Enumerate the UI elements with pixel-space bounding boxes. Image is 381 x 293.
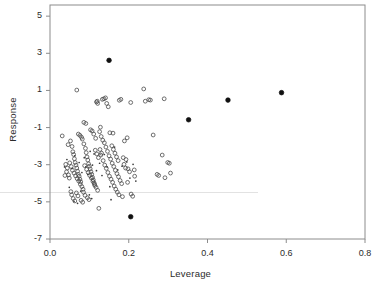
data-point-dot <box>114 146 116 148</box>
scatter-plot-figure: Leverage Response 0.00.20.40.60.8 531-1-… <box>0 0 381 293</box>
data-point-open <box>98 130 102 134</box>
data-point-open <box>82 142 86 146</box>
data-point-dot <box>68 187 70 189</box>
data-point-open <box>92 132 96 136</box>
data-point-open <box>73 161 77 165</box>
data-point-open <box>98 148 102 152</box>
data-point-open <box>123 139 127 143</box>
data-point-open <box>129 101 133 105</box>
data-point-open <box>116 159 120 163</box>
y-tick-label: -3 <box>12 159 42 169</box>
data-point-dot <box>85 166 87 168</box>
data-point-open <box>75 88 79 92</box>
data-point-open <box>169 171 173 175</box>
data-point-dot <box>81 172 83 174</box>
data-point-open <box>109 157 113 161</box>
data-point-dot <box>92 164 94 166</box>
data-point-open <box>97 156 101 160</box>
data-point-dot <box>106 166 108 168</box>
data-point-open <box>97 206 101 210</box>
data-point-dot <box>135 180 137 182</box>
y-tick-label: 5 <box>12 10 42 20</box>
x-tick-label: 0.2 <box>109 248 149 258</box>
data-point-open <box>69 139 73 143</box>
data-point-dot <box>117 169 119 171</box>
data-point-open <box>68 161 72 165</box>
data-point-open <box>120 182 124 186</box>
data-point-dot <box>93 153 95 155</box>
data-point-open <box>117 175 121 179</box>
data-point-dot <box>74 155 76 157</box>
y-tick-label: -1 <box>12 122 42 132</box>
data-point-open <box>95 152 99 156</box>
data-point-dot <box>126 161 128 163</box>
data-point-open <box>106 171 110 175</box>
data-point-dot <box>121 165 123 167</box>
data-point-open <box>112 165 116 169</box>
y-tick-label: 1 <box>12 84 42 94</box>
x-tick-label: 0.4 <box>188 248 228 258</box>
data-point-open <box>66 143 70 147</box>
data-point-dot <box>87 174 89 176</box>
data-point-dot <box>91 198 93 200</box>
data-point-open <box>113 151 117 155</box>
data-point-open <box>104 145 108 149</box>
data-point-dot <box>83 157 85 159</box>
y-tick-label: 3 <box>12 47 42 57</box>
data-point-open <box>111 148 115 152</box>
data-point-dot <box>129 177 131 179</box>
data-point-highlighted <box>107 58 112 63</box>
data-point-open <box>101 159 105 163</box>
data-point-dot <box>73 201 75 203</box>
data-point-dot <box>80 190 82 192</box>
data-point-open <box>110 144 114 148</box>
data-point-open <box>99 125 103 129</box>
data-point-dot <box>66 159 68 161</box>
data-point-open <box>106 149 110 153</box>
data-point-dot <box>110 199 112 201</box>
data-point-dot <box>89 150 91 152</box>
data-point-open <box>124 166 128 170</box>
data-point-open <box>106 105 110 109</box>
data-point-open <box>124 158 128 162</box>
data-point-open <box>84 151 88 155</box>
data-point-dot <box>132 163 134 165</box>
data-point-dot <box>99 162 101 164</box>
data-point-open <box>65 170 69 174</box>
data-point-open <box>132 168 136 172</box>
data-point-open <box>125 136 129 140</box>
y-tick-label: -5 <box>12 196 42 206</box>
data-point-dot <box>89 194 91 196</box>
data-point-dot <box>71 168 73 170</box>
data-point-open <box>64 162 68 166</box>
data-point-open <box>60 134 64 138</box>
data-point-dot <box>78 162 80 164</box>
data-point-open <box>70 145 74 149</box>
x-tick-label: 0.6 <box>266 248 306 258</box>
data-point-open <box>73 157 77 161</box>
plot-frame <box>50 5 365 239</box>
data-point-open <box>151 133 155 137</box>
data-point-open <box>142 87 146 91</box>
data-point-highlighted <box>186 117 191 122</box>
data-point-open <box>111 180 115 184</box>
data-point-open <box>93 148 97 152</box>
data-point-open <box>121 195 125 199</box>
data-point-open <box>160 153 164 157</box>
data-point-open <box>94 136 98 140</box>
data-point-highlighted <box>128 214 133 219</box>
data-point-dot <box>109 186 111 188</box>
series-observations <box>60 87 172 210</box>
data-point-open <box>163 176 167 180</box>
x-tick-label: 0.8 <box>345 248 381 258</box>
data-point-dot <box>77 202 79 204</box>
data-point-open <box>133 174 137 178</box>
data-point-dot <box>101 175 103 177</box>
data-point-open <box>126 180 130 184</box>
data-point-highlighted <box>279 90 284 95</box>
y-tick-label: -7 <box>12 233 42 243</box>
data-point-open <box>65 166 69 170</box>
data-point-highlighted <box>226 98 231 103</box>
data-point-open <box>115 155 119 159</box>
data-point-dot <box>96 170 98 172</box>
